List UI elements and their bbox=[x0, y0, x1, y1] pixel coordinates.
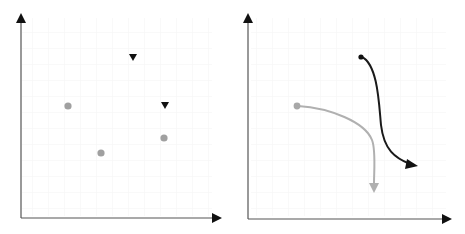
grid bbox=[22, 18, 212, 216]
x-axis-arrow-icon bbox=[442, 214, 452, 224]
black-curve-start bbox=[358, 54, 363, 59]
trajectory-panel bbox=[243, 13, 452, 224]
diagram-canvas bbox=[0, 0, 465, 234]
gray-point bbox=[160, 134, 167, 141]
gray-point bbox=[97, 149, 104, 156]
grid bbox=[251, 18, 446, 216]
gray-point bbox=[64, 102, 71, 109]
x-axis-arrow-icon bbox=[212, 213, 222, 223]
scatter-panel bbox=[16, 13, 222, 223]
gray-curve-start bbox=[294, 103, 301, 110]
